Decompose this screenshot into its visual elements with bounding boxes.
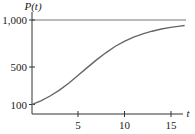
y-axis-label: P(t) bbox=[23, 0, 41, 13]
y-tick-label-1000: 1,000 bbox=[2, 14, 27, 26]
x-tick-label-15: 15 bbox=[166, 119, 178, 131]
logistic-growth-chart: 1,000 500 100 5 10 15 P(t) t bbox=[0, 0, 195, 134]
y-tick-label-500: 500 bbox=[11, 61, 28, 73]
y-tick-label-100: 100 bbox=[11, 99, 28, 111]
logistic-curve bbox=[32, 26, 185, 105]
x-tick-label-5: 5 bbox=[75, 119, 81, 131]
x-axis-label: t bbox=[186, 107, 190, 119]
x-tick-label-10: 10 bbox=[119, 119, 131, 131]
